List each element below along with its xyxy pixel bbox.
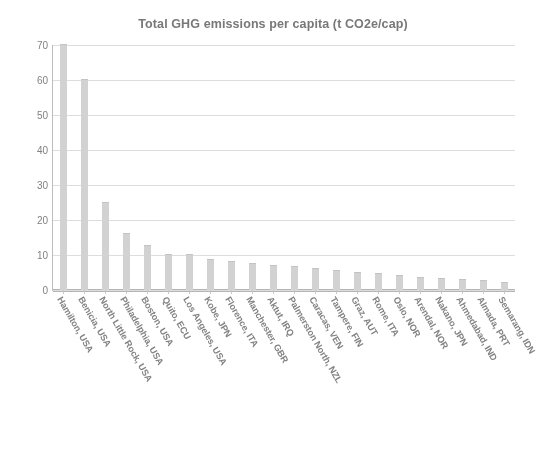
bar-slot <box>326 45 347 290</box>
y-tick-label: 30 <box>22 180 48 191</box>
bar <box>333 270 340 290</box>
x-tick-mark <box>189 290 190 294</box>
x-tick-mark <box>63 290 64 294</box>
bar <box>102 202 109 291</box>
bar-slot <box>452 45 473 290</box>
bar-slot <box>284 45 305 290</box>
x-tick-mark <box>420 290 421 294</box>
bar <box>501 282 508 290</box>
bar <box>396 275 403 290</box>
bar-slot <box>116 45 137 290</box>
bar-slot <box>158 45 179 290</box>
bar <box>228 261 235 290</box>
x-tick-mark <box>378 290 379 294</box>
x-tick-mark <box>315 290 316 294</box>
y-axis-tick-labels: 010203040506070 <box>18 45 48 290</box>
bar <box>81 79 88 290</box>
bar <box>165 254 172 290</box>
x-tick-mark <box>147 290 148 294</box>
y-tick-label: 20 <box>22 215 48 226</box>
y-tick-label: 10 <box>22 250 48 261</box>
x-tick-mark <box>105 290 106 294</box>
bar <box>60 44 67 290</box>
bar <box>480 280 487 290</box>
x-tick-mark <box>483 290 484 294</box>
bar <box>123 233 130 290</box>
x-tick-mark <box>168 290 169 294</box>
bar <box>291 266 298 290</box>
bar <box>375 273 382 290</box>
x-tick-mark <box>210 290 211 294</box>
x-tick-mark <box>504 290 505 294</box>
y-tick-label: 50 <box>22 110 48 121</box>
bar <box>186 254 193 290</box>
bar-slot <box>347 45 368 290</box>
x-axis-tick-labels: Hamilton, USABenicia, USANorth Little Ro… <box>53 295 515 435</box>
bar <box>207 259 214 290</box>
x-tick-mark <box>84 290 85 294</box>
y-tick-label: 40 <box>22 145 48 156</box>
bar-slot <box>74 45 95 290</box>
y-tick-label: 60 <box>22 75 48 86</box>
x-tick-mark <box>273 290 274 294</box>
y-tick-label: 0 <box>22 285 48 296</box>
x-tick-mark <box>441 290 442 294</box>
bar <box>438 278 445 290</box>
bar <box>144 245 151 290</box>
bar-series <box>53 45 515 290</box>
bar <box>354 272 361 291</box>
bar-chart: Total GHG emissions per capita (t CO2e/c… <box>0 0 546 463</box>
x-tick-mark <box>462 290 463 294</box>
y-tick-label: 70 <box>22 40 48 51</box>
x-tick-mark <box>294 290 295 294</box>
bar-slot <box>95 45 116 290</box>
bar-slot <box>179 45 200 290</box>
bar-slot <box>263 45 284 290</box>
bar-slot <box>368 45 389 290</box>
bar-slot <box>137 45 158 290</box>
bar-slot <box>200 45 221 290</box>
plot-area <box>53 45 515 290</box>
bar-slot <box>242 45 263 290</box>
x-tick-mark <box>252 290 253 294</box>
bar-slot <box>221 45 242 290</box>
bar-slot <box>431 45 452 290</box>
chart-title: Total GHG emissions per capita (t CO2e/c… <box>0 17 546 31</box>
bar-slot <box>494 45 515 290</box>
x-tick-mark <box>357 290 358 294</box>
x-tick-mark <box>126 290 127 294</box>
bar <box>312 268 319 290</box>
gridline <box>53 290 515 291</box>
bar <box>417 277 424 290</box>
x-tick-mark <box>231 290 232 294</box>
bar-slot <box>389 45 410 290</box>
x-tick-mark <box>336 290 337 294</box>
bar <box>270 265 277 291</box>
bar <box>459 279 466 291</box>
x-tick-mark <box>399 290 400 294</box>
bar-slot <box>305 45 326 290</box>
bar-slot <box>473 45 494 290</box>
bar-slot <box>53 45 74 290</box>
bar <box>249 263 256 290</box>
bar-slot <box>410 45 431 290</box>
